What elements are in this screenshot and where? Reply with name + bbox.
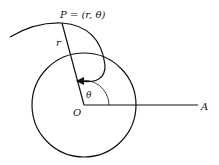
radius-line-OP (62, 23, 84, 105)
point-P-label: P = (r, θ) (59, 9, 105, 20)
theta-label: θ (86, 90, 92, 100)
spiral-arc (10, 23, 105, 82)
polar-coordinates-diagram: P = (r, θ) r θ O A (0, 0, 219, 165)
r-label: r (56, 37, 62, 48)
origin-label: O (73, 107, 81, 118)
axis-A-label: A (200, 101, 208, 112)
